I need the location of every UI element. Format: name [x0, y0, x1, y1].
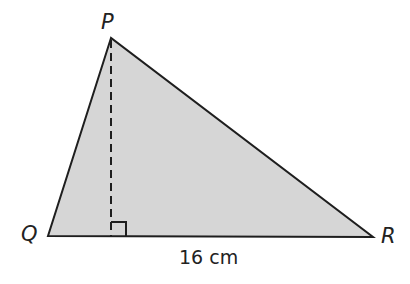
vertex-label-p: P	[101, 12, 114, 33]
triangle-pqr	[48, 38, 373, 237]
vertex-label-q: Q	[21, 224, 38, 245]
base-length-label: 16 cm	[179, 248, 238, 267]
vertex-label-r: R	[381, 226, 396, 247]
triangle-diagram: P Q R 16 cm	[0, 0, 410, 284]
triangle-figure	[0, 0, 410, 284]
